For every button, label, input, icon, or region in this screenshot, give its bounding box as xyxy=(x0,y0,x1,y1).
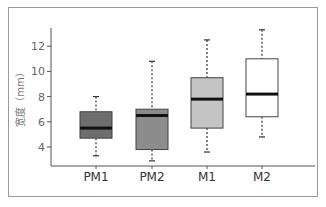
box-pm2 xyxy=(136,61,168,161)
x-tick-label: M1 xyxy=(198,170,216,184)
box-m2 xyxy=(246,30,278,137)
iqr-box xyxy=(246,59,278,117)
box-pm1 xyxy=(80,97,112,156)
y-tick-label: 6 xyxy=(38,116,45,129)
iqr-box xyxy=(191,78,223,128)
y-tick-label: 8 xyxy=(38,91,45,104)
x-tick-label: PM1 xyxy=(83,170,108,184)
box-plot: 4681012宽度（mm）PM1PM2M1M2 xyxy=(0,0,326,207)
y-axis-label: 宽度（mm） xyxy=(14,67,26,126)
iqr-box xyxy=(80,112,112,138)
y-tick-label: 10 xyxy=(31,65,45,78)
box-m1 xyxy=(191,40,223,152)
x-tick-label: M2 xyxy=(253,170,271,184)
y-tick-label: 12 xyxy=(31,40,45,53)
y-tick-label: 4 xyxy=(38,141,45,154)
x-tick-label: PM2 xyxy=(139,170,164,184)
